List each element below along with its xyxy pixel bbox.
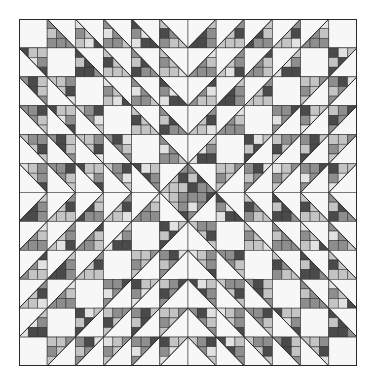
quilt-block xyxy=(188,250,216,279)
quilt-block xyxy=(216,308,244,337)
quilt-block xyxy=(329,337,357,366)
quilt-block xyxy=(132,135,160,164)
quilt-block xyxy=(244,221,272,250)
quilt-block xyxy=(273,337,301,366)
quilt-block xyxy=(273,106,301,135)
quilt-block xyxy=(75,193,103,222)
quilt-block xyxy=(132,308,160,337)
quilt-block xyxy=(19,48,47,77)
quilt-block xyxy=(160,106,188,135)
quilt-block xyxy=(160,193,188,222)
quilt-block xyxy=(216,193,244,222)
quilt-block xyxy=(273,48,301,77)
quilt-block xyxy=(75,48,103,77)
quilt-block xyxy=(244,19,272,48)
quilt-block xyxy=(188,19,216,48)
quilt-block xyxy=(273,193,301,222)
quilt-block xyxy=(301,221,329,250)
quilt-block xyxy=(301,77,329,106)
quilt-block xyxy=(301,308,329,337)
quilt-block xyxy=(244,48,272,77)
quilt-block xyxy=(104,193,132,222)
quilt-block xyxy=(216,337,244,366)
quilt-svg xyxy=(19,19,357,366)
quilt-block xyxy=(160,250,188,279)
quilt-block xyxy=(329,77,357,106)
quilt-block xyxy=(47,221,75,250)
quilt-block xyxy=(104,337,132,366)
quilt-block xyxy=(19,250,47,279)
quilt-block xyxy=(329,106,357,135)
quilt-block xyxy=(216,221,244,250)
quilt-block xyxy=(216,19,244,48)
quilt-block xyxy=(216,77,244,106)
quilt-block xyxy=(273,19,301,48)
quilt-block xyxy=(104,48,132,77)
quilt-block xyxy=(273,164,301,193)
quilt-block xyxy=(188,106,216,135)
quilt-block xyxy=(47,164,75,193)
quilt-block xyxy=(244,337,272,366)
quilt-block xyxy=(329,308,357,337)
quilt-block xyxy=(188,279,216,308)
quilt-block xyxy=(273,77,301,106)
quilt-block xyxy=(188,308,216,337)
quilt-block xyxy=(301,337,329,366)
quilt-block xyxy=(19,337,47,366)
quilt-block xyxy=(216,135,244,164)
quilt-block xyxy=(329,193,357,222)
quilt-block xyxy=(329,164,357,193)
quilt-block xyxy=(75,250,103,279)
quilt-block xyxy=(329,19,357,48)
quilt-block xyxy=(47,48,75,77)
quilt-block xyxy=(188,193,216,222)
quilt-block xyxy=(244,279,272,308)
quilt-block xyxy=(301,48,329,77)
quilt-block xyxy=(132,19,160,48)
quilt-block xyxy=(132,337,160,366)
quilt-block xyxy=(19,77,47,106)
quilt-block xyxy=(301,250,329,279)
quilt-block xyxy=(301,193,329,222)
quilt-block xyxy=(244,164,272,193)
quilt-block xyxy=(104,19,132,48)
quilt-block xyxy=(132,164,160,193)
quilt-block xyxy=(75,221,103,250)
quilt-block xyxy=(301,106,329,135)
quilt-block xyxy=(329,221,357,250)
quilt-block xyxy=(47,337,75,366)
quilt-block xyxy=(160,135,188,164)
quilt-block xyxy=(75,279,103,308)
quilt-block xyxy=(104,135,132,164)
quilt-block xyxy=(188,337,216,366)
quilt-block xyxy=(104,221,132,250)
quilt-block xyxy=(273,135,301,164)
quilt-block xyxy=(132,106,160,135)
quilt-block xyxy=(188,135,216,164)
quilt-block xyxy=(47,106,75,135)
quilt-pattern xyxy=(19,19,357,366)
quilt-block xyxy=(104,308,132,337)
quilt-block xyxy=(216,250,244,279)
quilt-block xyxy=(188,164,216,193)
quilt-block xyxy=(132,77,160,106)
quilt-block xyxy=(244,250,272,279)
quilt-block xyxy=(132,221,160,250)
quilt-block xyxy=(188,48,216,77)
quilt-block xyxy=(19,135,47,164)
quilt-block xyxy=(244,77,272,106)
quilt-block xyxy=(75,77,103,106)
quilt-block xyxy=(75,337,103,366)
quilt-block xyxy=(104,77,132,106)
quilt-block xyxy=(104,106,132,135)
quilt-block xyxy=(273,308,301,337)
quilt-block xyxy=(188,77,216,106)
quilt-block xyxy=(104,164,132,193)
quilt-block xyxy=(75,308,103,337)
quilt-block xyxy=(75,135,103,164)
quilt-block xyxy=(301,164,329,193)
quilt-block xyxy=(160,337,188,366)
quilt-block xyxy=(47,250,75,279)
quilt-block xyxy=(160,221,188,250)
quilt-block xyxy=(329,279,357,308)
